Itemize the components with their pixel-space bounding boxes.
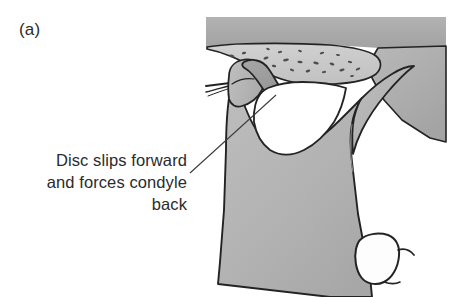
molar-tooth [355, 234, 414, 284]
tmj-illustration [0, 0, 455, 297]
figure-panel: (a) Disc slips forward and forces condyl… [0, 0, 455, 297]
